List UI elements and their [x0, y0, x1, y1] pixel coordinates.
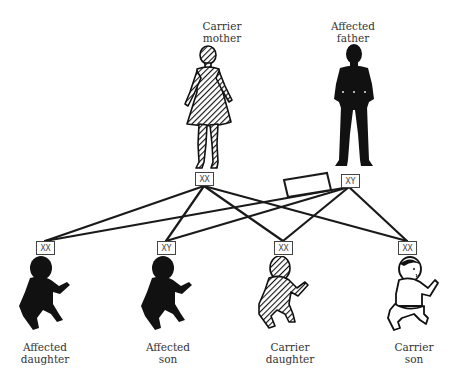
- child2-genotype-box: XY: [157, 241, 176, 255]
- father-label-line2: father: [331, 32, 375, 44]
- line-mother-child3: [204, 186, 283, 241]
- child4-label-line2: son: [395, 353, 434, 365]
- child1-label: Affected daughter: [21, 341, 70, 365]
- line-mother-child1: [45, 186, 204, 241]
- mother-label-line2: mother: [203, 32, 242, 44]
- child2-label: Affected son: [146, 341, 190, 365]
- child3-label: Carrier daughter: [266, 341, 315, 365]
- child4-label-line1: Carrier: [395, 341, 434, 353]
- mother-label: Carrier mother: [203, 20, 242, 44]
- child1-genotype-box: XX: [36, 241, 55, 255]
- father-label-line1: Affected: [331, 20, 375, 32]
- father-label: Affected father: [331, 20, 375, 44]
- inheritance-diagram: Carrier mother Affected father: [0, 0, 450, 371]
- child2-label-line2: son: [146, 353, 190, 365]
- affected-son-figure-icon: [137, 256, 193, 332]
- child2-label-line1: Affected: [146, 341, 190, 353]
- father-figure-icon: [330, 44, 378, 168]
- child1-label-line1: Affected: [21, 341, 70, 353]
- child3-genotype-box: XX: [274, 241, 293, 255]
- mother-genotype-box: XX: [195, 172, 214, 186]
- carrier-son-figure-icon: [380, 256, 440, 332]
- carrier-daughter-figure-icon: [253, 256, 309, 332]
- child3-label-line1: Carrier: [266, 341, 315, 353]
- father-genotype-box: XY: [341, 174, 360, 188]
- mother-figure-icon: [175, 44, 245, 172]
- child4-genotype-box: XX: [398, 241, 417, 255]
- child1-label-line2: daughter: [21, 353, 70, 365]
- affected-daughter-figure-icon: [15, 256, 71, 332]
- child4-label: Carrier son: [395, 341, 434, 365]
- mother-label-line1: Carrier: [203, 20, 242, 32]
- child3-label-line2: daughter: [266, 353, 315, 365]
